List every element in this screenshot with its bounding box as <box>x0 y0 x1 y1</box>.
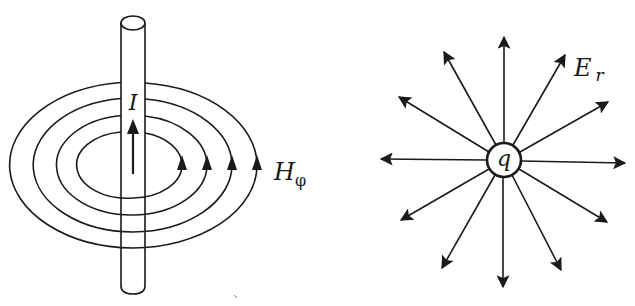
magnetic-field-label: Hφ <box>273 158 306 190</box>
ring-direction-arrows <box>177 155 262 170</box>
electric-field-figure: q Er <box>381 37 625 287</box>
magnetic-field-figure: I Hφ <box>10 16 307 298</box>
electric-field-label: Er <box>573 54 605 85</box>
field-label-sub: r <box>596 65 605 85</box>
field-arrow-up-left-shallow <box>399 97 489 152</box>
charge-label: q <box>497 146 511 171</box>
field-arrow-up-left-steep <box>444 52 496 145</box>
field-label-sub: φ <box>295 171 306 190</box>
point-charge: q <box>487 143 521 177</box>
field-arrow-down-left-shallow <box>401 169 489 220</box>
ring-arrow-icon <box>177 155 187 170</box>
ring-arrow-icon <box>202 155 212 170</box>
stray-mark <box>234 295 237 298</box>
field-label-main: E <box>573 54 592 82</box>
field-arrow-down-left-steep <box>442 175 495 268</box>
field-label-main: H <box>273 158 296 186</box>
field-arrow-left <box>381 159 487 160</box>
diagram-canvas: I Hφ q Er <box>0 0 635 306</box>
current-label: I <box>128 90 139 115</box>
field-arrow-right <box>521 161 625 163</box>
wire-top-cap <box>121 16 145 30</box>
ring-arrow-icon <box>252 155 262 170</box>
ring-arrow-icon <box>227 155 237 170</box>
